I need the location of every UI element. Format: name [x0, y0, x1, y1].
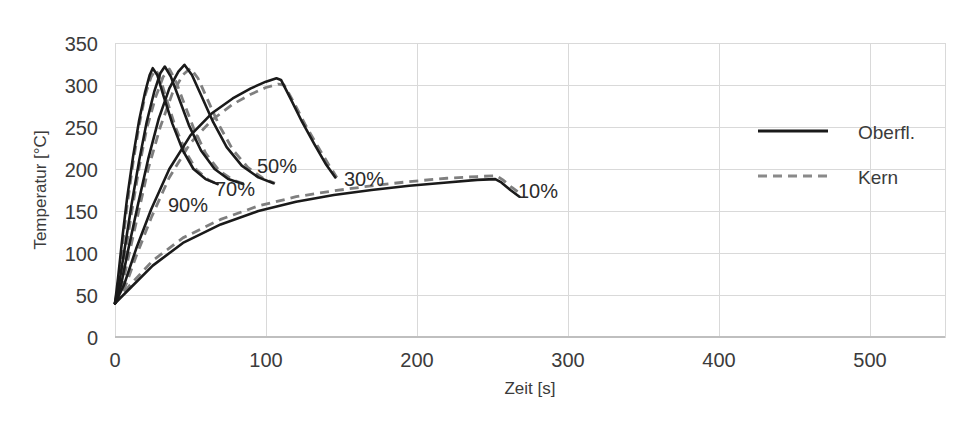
x-axis-title: Zeit [s]: [504, 379, 555, 398]
y-tick-label-350: 350: [65, 33, 98, 55]
y-tick-label-200: 200: [65, 159, 98, 181]
y-tick-label-150: 150: [65, 201, 98, 223]
y-tick-label-0: 0: [87, 327, 98, 349]
annotation-50: 50%: [257, 155, 297, 177]
annotation-70: 70%: [215, 178, 255, 200]
chart-container: 350 300 250 200 150 100 50 0 0 100 200 3…: [0, 0, 978, 424]
y-tick-label-50: 50: [76, 285, 98, 307]
y-axis-title: Temperatur [°C]: [31, 130, 50, 249]
y-tick-label-100: 100: [65, 243, 98, 265]
x-tick-label-400: 400: [702, 349, 735, 371]
x-tick-label-100: 100: [249, 349, 282, 371]
x-axis-tick-labels: 0 100 200 300 400 500: [109, 349, 886, 371]
x-tick-label-300: 300: [551, 349, 584, 371]
x-tick-label-0: 0: [109, 349, 120, 371]
annotation-30: 30%: [344, 168, 384, 190]
y-axis-tick-labels: 350 300 250 200 150 100 50 0: [65, 33, 98, 349]
line-chart: 350 300 250 200 150 100 50 0 0 100 200 3…: [0, 0, 978, 424]
legend-label-oberflaeche: Oberfl.: [858, 122, 915, 143]
annotation-90: 90%: [168, 194, 208, 216]
y-tick-label-300: 300: [65, 75, 98, 97]
x-tick-label-500: 500: [853, 349, 886, 371]
x-tick-label-200: 200: [400, 349, 433, 371]
annotation-10: 10%: [518, 180, 558, 202]
y-tick-label-250: 250: [65, 117, 98, 139]
legend-label-kern: Kern: [858, 167, 898, 188]
